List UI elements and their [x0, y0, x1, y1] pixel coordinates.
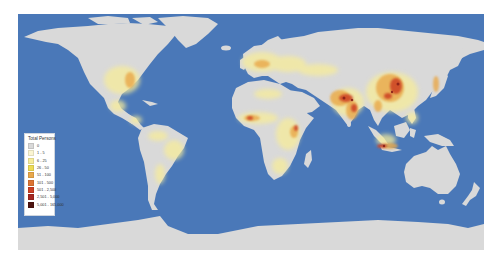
legend-swatch-6	[28, 187, 34, 193]
legend-item: 1 - 5	[28, 150, 51, 157]
map-legend: Total Persons 0 1 - 5 6 - 25 26 - 50 51 …	[24, 133, 55, 216]
land-masses	[18, 16, 484, 250]
legend-swatch-4	[28, 172, 34, 178]
legend-item: 2,501 - 5,000	[28, 194, 51, 201]
legend-item: 501 - 2,500	[28, 186, 51, 193]
legend-item: 6 - 25	[28, 157, 51, 164]
legend-swatch-1	[28, 150, 34, 156]
north-america	[24, 23, 178, 124]
legend-swatch-3	[28, 165, 34, 171]
legend-item: 101 - 500	[28, 179, 51, 186]
legend-swatch-0	[28, 143, 34, 149]
legend-item: 26 - 50	[28, 164, 51, 171]
legend-swatch-7	[28, 194, 34, 200]
world-population-map	[18, 14, 484, 250]
legend-item: 51 - 100	[28, 172, 51, 179]
legend-swatch-2	[28, 158, 34, 164]
legend-swatch-8	[28, 202, 34, 208]
legend-item: 5,001 - 165,000	[28, 201, 51, 208]
australia	[404, 146, 460, 194]
legend-swatch-5	[28, 180, 34, 186]
antarctica	[18, 216, 484, 250]
legend-item: 0	[28, 143, 51, 150]
legend-title: Total Persons	[28, 136, 51, 141]
map-canvas	[18, 14, 484, 250]
